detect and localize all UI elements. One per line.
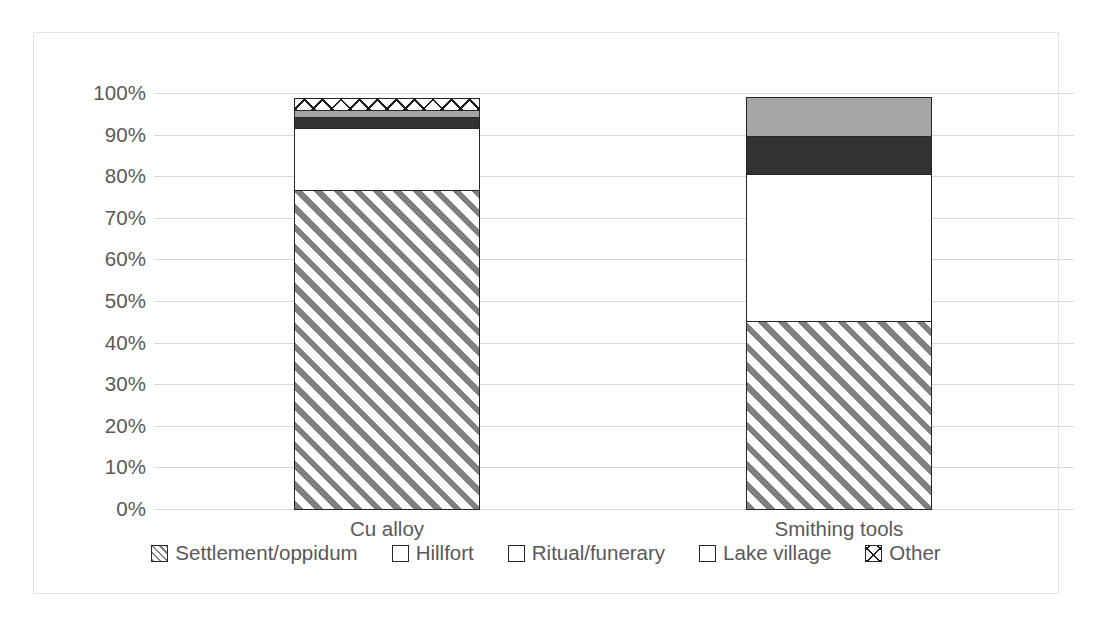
legend-label: Other	[889, 541, 940, 565]
bar-segment-settlement-oppidum[interactable]	[294, 190, 480, 510]
legend-swatch-icon	[392, 545, 409, 562]
bar-cu-alloy[interactable]	[294, 98, 480, 509]
gridline	[154, 135, 1074, 136]
x-axis-tick-label: Cu alloy	[237, 517, 537, 541]
y-axis-tick-label: 100%	[68, 81, 146, 105]
y-axis-tick-label: 80%	[68, 164, 146, 188]
legend-item-ritual-funerary[interactable]: Ritual/funerary	[508, 541, 665, 565]
chart-frame: 0%10%20%30%40%50%60%70%80%90%100% Cu all…	[33, 32, 1059, 594]
y-axis-tick-label: 90%	[68, 123, 146, 147]
legend-item-lake-village[interactable]: Lake village	[699, 541, 831, 565]
plot-area	[154, 93, 1074, 509]
legend-label: Lake village	[723, 541, 831, 565]
gridline	[154, 259, 1074, 260]
y-axis-tick-label: 30%	[68, 372, 146, 396]
legend-item-settlement-oppidum[interactable]: Settlement/oppidum	[151, 541, 357, 565]
gridline	[154, 218, 1074, 219]
legend-label: Hillfort	[416, 541, 474, 565]
y-axis-tick-label: 20%	[68, 414, 146, 438]
gridline	[154, 384, 1074, 385]
chart-legend: Settlement/oppidumHillfortRitual/funerar…	[34, 541, 1058, 565]
legend-label: Settlement/oppidum	[175, 541, 357, 565]
gridline	[154, 509, 1074, 510]
bar-segment-lake-village[interactable]	[746, 97, 932, 137]
y-axis-tick-label: 0%	[68, 497, 146, 521]
bar-smithing-tools[interactable]	[746, 97, 932, 509]
gridline	[154, 93, 1074, 94]
legend-swatch-icon	[151, 545, 168, 562]
bar-segment-hillfort[interactable]	[294, 128, 480, 190]
y-axis-tick-label: 10%	[68, 455, 146, 479]
gridline	[154, 176, 1074, 177]
legend-swatch-icon	[865, 545, 882, 562]
gridline	[154, 301, 1074, 302]
bar-segment-settlement-oppidum[interactable]	[746, 321, 932, 510]
legend-swatch-icon	[699, 545, 716, 562]
legend-swatch-icon	[508, 545, 525, 562]
bar-segment-hillfort[interactable]	[746, 174, 932, 322]
y-axis-tick-label: 40%	[68, 331, 146, 355]
gridline	[154, 426, 1074, 427]
y-axis: 0%10%20%30%40%50%60%70%80%90%100%	[62, 93, 146, 509]
x-axis-tick-label: Smithing tools	[689, 517, 989, 541]
bar-segment-ritual-funerary[interactable]	[746, 136, 932, 176]
gridline	[154, 343, 1074, 344]
y-axis-tick-label: 70%	[68, 206, 146, 230]
legend-item-hillfort[interactable]: Hillfort	[392, 541, 474, 565]
y-axis-tick-label: 50%	[68, 289, 146, 313]
y-axis-tick-label: 60%	[68, 247, 146, 271]
gridline	[154, 467, 1074, 468]
legend-label: Ritual/funerary	[532, 541, 665, 565]
legend-item-other[interactable]: Other	[865, 541, 940, 565]
